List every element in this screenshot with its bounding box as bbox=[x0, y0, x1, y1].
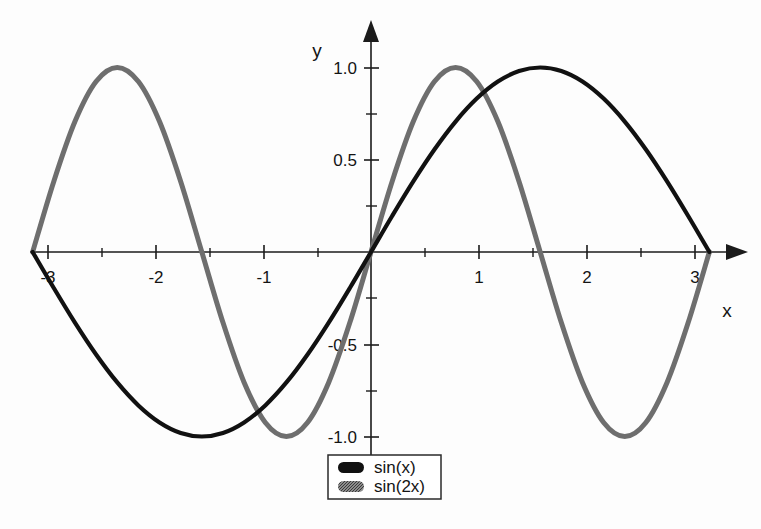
chart-figure: -3 -2 -1 1 2 3 1.0 0.5 -0.5 -1.0 y x bbox=[0, 0, 761, 529]
legend: sin(x) sin(2x) bbox=[328, 455, 441, 499]
y-tick-label: -1.0 bbox=[328, 428, 357, 447]
plot-background bbox=[0, 0, 761, 529]
sine-plot-svg: -3 -2 -1 1 2 3 1.0 0.5 -0.5 -1.0 y x bbox=[0, 0, 761, 529]
x-axis-label: x bbox=[722, 300, 732, 321]
x-tick-label: 2 bbox=[582, 268, 591, 287]
legend-swatch-sin-2x bbox=[338, 481, 364, 492]
legend-swatch-sin-x bbox=[338, 462, 364, 473]
x-tick-label: 1 bbox=[474, 268, 483, 287]
y-tick-label: 0.5 bbox=[333, 151, 357, 170]
x-tick-label: -2 bbox=[148, 268, 163, 287]
y-axis-label: y bbox=[312, 40, 322, 61]
legend-label-sin-x: sin(x) bbox=[374, 458, 416, 477]
y-tick-label: 1.0 bbox=[333, 59, 357, 78]
legend-label-sin-2x: sin(2x) bbox=[374, 477, 425, 496]
x-tick-label: -1 bbox=[256, 268, 271, 287]
